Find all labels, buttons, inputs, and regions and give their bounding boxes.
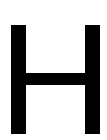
h-crossbar xyxy=(26,73,85,85)
h-left-stem xyxy=(11,25,26,134)
letter-h-glyph: H xyxy=(0,0,107,140)
h-right-stem xyxy=(85,25,100,134)
glyph-character: H xyxy=(0,0,1,1)
